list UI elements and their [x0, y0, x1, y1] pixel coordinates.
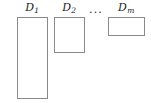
box-label-d1-subscript: 1 — [34, 6, 39, 15]
box-label-d2-base: D — [62, 1, 71, 14]
box-label-d1: D1 — [25, 2, 39, 13]
box-label-dm-subscript: m — [127, 6, 134, 15]
box-d1 — [17, 17, 48, 99]
box-label-d1-base: D — [25, 1, 34, 14]
box-d2 — [54, 17, 85, 53]
box-label-dm-base: D — [118, 1, 127, 14]
dataset-partition-diagram: D1 D2 ... Dm — [0, 0, 151, 103]
box-dm — [108, 17, 145, 36]
ellipsis-label: ... — [89, 4, 103, 15]
box-label-d2-subscript: 2 — [71, 6, 76, 15]
box-label-dm: Dm — [118, 2, 134, 13]
box-label-d2: D2 — [62, 2, 76, 13]
